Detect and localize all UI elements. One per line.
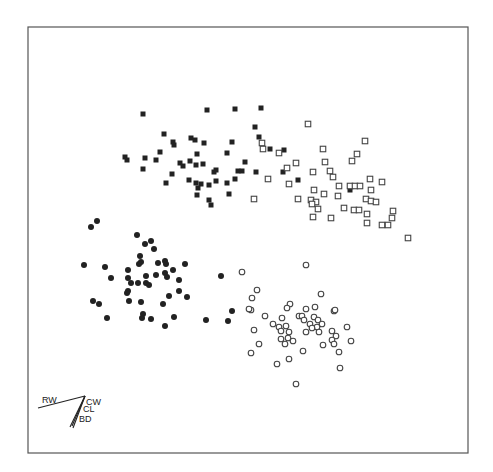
- data-point: [282, 341, 288, 347]
- data-point: [128, 280, 134, 286]
- data-point: [310, 214, 316, 220]
- data-point: [203, 317, 209, 323]
- data-point: [286, 329, 292, 335]
- data-point: [303, 306, 309, 312]
- data-point: [246, 306, 252, 312]
- data-point: [160, 301, 166, 307]
- data-point: [214, 179, 219, 184]
- series-group-open-square: [251, 121, 411, 241]
- data-point: [218, 273, 224, 279]
- data-point: [205, 108, 210, 113]
- data-point: [364, 220, 370, 226]
- data-point: [253, 125, 258, 130]
- data-point: [322, 159, 328, 165]
- data-point: [137, 253, 143, 259]
- data-point: [164, 181, 169, 186]
- data-point: [225, 181, 230, 186]
- data-point: [293, 381, 299, 387]
- data-point: [182, 261, 188, 267]
- data-point: [279, 315, 285, 321]
- data-point: [270, 321, 276, 327]
- data-point: [268, 147, 273, 152]
- data-point: [184, 294, 190, 300]
- data-point: [341, 205, 347, 211]
- vector-label-cl: CL: [83, 404, 95, 414]
- series-group-open-circle: [239, 262, 354, 387]
- data-point: [385, 222, 391, 228]
- data-point: [286, 356, 292, 362]
- data-point: [290, 338, 296, 344]
- data-point: [303, 329, 309, 335]
- data-point: [278, 328, 284, 334]
- data-point: [146, 282, 152, 288]
- data-point: [316, 329, 322, 335]
- data-point: [405, 235, 411, 241]
- data-point: [201, 162, 206, 167]
- data-point: [194, 181, 199, 186]
- data-point: [296, 178, 301, 183]
- data-point: [328, 215, 334, 221]
- data-point: [312, 304, 318, 310]
- data-point: [171, 314, 177, 320]
- vector-label-bd: BD: [79, 414, 92, 424]
- data-point: [135, 280, 141, 286]
- data-point: [362, 138, 368, 144]
- data-point: [194, 163, 199, 168]
- data-point: [141, 112, 146, 117]
- data-point: [88, 224, 94, 230]
- data-point: [126, 298, 132, 304]
- data-point: [94, 218, 100, 224]
- data-point: [233, 107, 238, 112]
- data-point: [251, 327, 257, 333]
- data-point: [136, 261, 142, 267]
- data-point: [262, 313, 268, 319]
- data-point: [162, 323, 168, 329]
- data-point: [233, 177, 238, 182]
- data-point: [225, 318, 231, 324]
- data-point: [209, 203, 214, 208]
- data-point: [309, 201, 315, 207]
- data-point: [357, 183, 363, 189]
- data-point: [176, 277, 182, 283]
- data-point: [172, 143, 177, 148]
- data-point: [125, 267, 131, 273]
- data-point: [295, 196, 301, 202]
- data-point: [286, 181, 292, 187]
- data-point: [311, 187, 317, 193]
- data-point: [142, 241, 148, 247]
- data-point: [236, 169, 241, 174]
- data-point: [225, 151, 230, 156]
- data-point: [207, 198, 212, 203]
- data-point: [254, 287, 260, 293]
- data-point: [158, 150, 163, 155]
- data-point: [207, 183, 212, 188]
- data-point: [356, 207, 362, 213]
- data-point: [162, 132, 167, 137]
- data-point: [283, 323, 289, 329]
- data-point: [108, 275, 114, 281]
- data-point: [320, 146, 326, 152]
- data-point: [301, 317, 307, 323]
- data-point: [125, 158, 130, 163]
- series-group-filled-circle: [81, 218, 235, 329]
- data-point: [187, 178, 192, 183]
- data-point: [284, 305, 290, 311]
- data-point: [170, 172, 175, 177]
- data-point: [181, 164, 186, 169]
- data-point: [124, 290, 130, 296]
- data-point: [329, 328, 335, 334]
- vector-label-rw: RW: [42, 395, 57, 405]
- data-point: [303, 262, 309, 268]
- data-point: [202, 141, 207, 146]
- data-point: [309, 325, 315, 331]
- data-point: [293, 160, 299, 166]
- data-point: [278, 336, 284, 342]
- data-point: [368, 187, 374, 193]
- data-point: [349, 158, 355, 164]
- data-point: [305, 121, 311, 127]
- data-point: [193, 138, 198, 143]
- data-point: [256, 341, 262, 347]
- data-point: [364, 211, 370, 217]
- data-point: [151, 246, 157, 252]
- data-point: [390, 208, 396, 214]
